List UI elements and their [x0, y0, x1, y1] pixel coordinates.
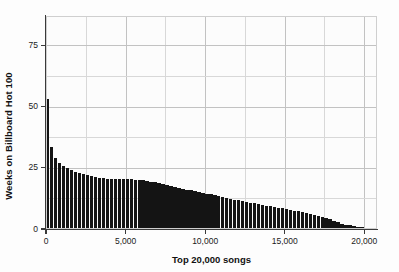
x-tick-label: 5,000: [101, 236, 151, 246]
bar: [138, 180, 141, 229]
bar: [82, 174, 85, 229]
bar: [130, 179, 133, 229]
bar: [317, 216, 320, 229]
bar: [114, 179, 117, 229]
bar: [289, 210, 292, 229]
bar: [177, 188, 180, 229]
bar: [70, 170, 73, 229]
bar: [321, 217, 324, 229]
bar: [328, 219, 331, 229]
y-tick-label: 75: [10, 40, 38, 50]
bar: [134, 180, 137, 229]
bar: [86, 175, 89, 229]
bar-series: [46, 16, 377, 229]
bar: [265, 206, 268, 230]
bar: [269, 206, 272, 229]
bar: [165, 185, 168, 229]
x-tick-mark: [205, 230, 206, 234]
y-axis-line: [45, 15, 46, 230]
bar: [126, 179, 129, 229]
bar: [301, 212, 304, 229]
bar: [285, 209, 288, 229]
x-tick-label: 20,000: [339, 236, 389, 246]
bar: [277, 208, 280, 229]
bar: [332, 221, 335, 229]
bar: [281, 208, 284, 229]
bar: [249, 203, 252, 229]
bar: [145, 181, 148, 229]
bar: [257, 204, 260, 229]
y-tick-mark: [41, 45, 45, 46]
bar: [94, 177, 97, 229]
bar: [54, 158, 57, 229]
y-tick-mark: [41, 106, 45, 107]
bar: [106, 179, 109, 229]
bar: [213, 195, 216, 229]
bar: [46, 99, 49, 229]
bar: [193, 191, 196, 229]
bar: [237, 200, 240, 229]
bar: [50, 147, 53, 229]
bar: [225, 198, 228, 229]
chart-figure: Weeks on Billboard Hot 100 0255075 05,00…: [0, 0, 399, 272]
x-axis-title: Top 20,000 songs: [46, 252, 377, 266]
y-tick-mark: [41, 228, 45, 229]
bar: [205, 194, 208, 230]
x-tick-mark: [125, 230, 126, 234]
bar: [102, 178, 105, 229]
bar: [221, 197, 224, 229]
bar: [118, 179, 121, 229]
x-tick-mark: [364, 230, 365, 234]
bar: [66, 168, 69, 229]
bar: [233, 200, 236, 229]
bar: [189, 190, 192, 229]
y-tick-label: 0: [10, 224, 38, 234]
bar: [253, 203, 256, 229]
bar: [161, 184, 164, 229]
bar: [261, 205, 264, 229]
bar: [241, 201, 244, 229]
x-tick-label: 15,000: [260, 236, 310, 246]
y-tick-mark: [41, 167, 45, 168]
bar: [245, 202, 248, 229]
bar: [305, 213, 308, 229]
bar: [336, 222, 339, 229]
bar: [324, 218, 327, 229]
x-tick-mark: [284, 230, 285, 234]
bar: [217, 196, 220, 229]
bar: [149, 182, 152, 229]
x-tick-label: 0: [21, 236, 71, 246]
bar: [98, 178, 101, 229]
bar: [309, 214, 312, 229]
plot-area: [46, 16, 377, 229]
y-tick-label: 25: [10, 162, 38, 172]
bar: [273, 207, 276, 229]
bar: [201, 193, 204, 229]
bar: [173, 187, 176, 229]
bar: [62, 166, 65, 229]
bar: [157, 183, 160, 229]
bar: [74, 172, 77, 229]
bar: [141, 180, 144, 229]
bar: [297, 211, 300, 229]
bar: [58, 163, 61, 229]
bar: [229, 199, 232, 229]
bar: [293, 211, 296, 229]
x-tick-mark: [45, 230, 46, 234]
bar: [153, 182, 156, 229]
bar: [209, 194, 212, 229]
bar: [181, 189, 184, 229]
bar: [122, 179, 125, 229]
x-axis-line: [45, 229, 378, 230]
bar: [90, 176, 93, 229]
bar: [169, 186, 172, 229]
bar: [197, 192, 200, 229]
bar: [185, 190, 188, 229]
y-tick-label: 50: [10, 101, 38, 111]
bar: [313, 215, 316, 229]
x-tick-label: 10,000: [180, 236, 230, 246]
bar: [78, 173, 81, 229]
bar: [110, 179, 113, 229]
